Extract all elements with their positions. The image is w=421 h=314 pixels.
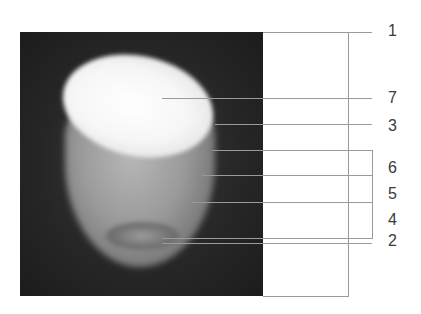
leader-bracket-bottom xyxy=(162,238,373,239)
leader-line-4 xyxy=(192,202,372,203)
leader-line-1-vertical xyxy=(348,32,349,296)
leader-line-2 xyxy=(162,243,372,244)
leader-bracket-vertical xyxy=(372,150,373,239)
label-5: 5 xyxy=(388,186,397,202)
label-7: 7 xyxy=(388,90,397,106)
label-6: 6 xyxy=(388,160,397,176)
leader-line-1-bottom xyxy=(263,296,349,297)
leader-line-6 xyxy=(212,150,372,151)
leader-line-7 xyxy=(162,98,372,99)
leader-line-3 xyxy=(215,124,372,125)
label-3: 3 xyxy=(388,118,397,134)
label-2: 2 xyxy=(388,233,397,249)
cup-photograph xyxy=(20,32,263,296)
cup-base xyxy=(105,222,180,250)
leader-line-5 xyxy=(202,175,372,176)
label-1: 1 xyxy=(388,23,397,39)
leader-line-1-top xyxy=(263,32,372,33)
label-4: 4 xyxy=(388,212,397,228)
